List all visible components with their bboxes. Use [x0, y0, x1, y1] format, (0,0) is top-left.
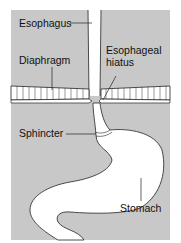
label-sphincter: Sphincter	[19, 128, 63, 139]
label-stomach: Stomach	[120, 203, 161, 214]
anatomy-diagram: Esophagus Diaphragm Esophageal hiatus Sp…	[0, 0, 181, 243]
label-esophageal-hiatus-line1: Esophageal	[106, 45, 161, 56]
label-esophageal-hiatus-line2: hiatus	[106, 57, 134, 68]
diaphragm-right	[99, 86, 170, 103]
label-esophagus: Esophagus	[19, 18, 72, 29]
diaphragm-left	[11, 86, 92, 103]
label-diaphragm: Diaphragm	[19, 55, 70, 66]
